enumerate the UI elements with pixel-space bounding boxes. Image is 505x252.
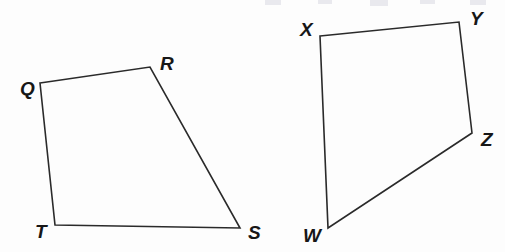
scan-artifact (420, 0, 435, 4)
scan-artifact (265, 0, 281, 5)
vertex-label-w: W (303, 225, 323, 246)
vertex-label-t: T (35, 221, 48, 242)
figure-canvas: Q R S T X Y Z W (0, 0, 505, 252)
shape-quadrilateral-qrst: Q R S T (20, 53, 261, 243)
geometry-figure: Q R S T X Y Z W (0, 0, 505, 252)
scan-artifact-group (265, 0, 486, 6)
vertex-label-y: Y (470, 8, 485, 29)
scan-artifact (318, 0, 332, 4)
shape-quadrilateral-xyzw: X Y Z W (299, 8, 494, 246)
vertex-label-r: R (160, 53, 174, 74)
scan-artifact (370, 0, 388, 6)
vertex-label-s: S (248, 222, 261, 243)
quadrilateral-qrst-outline (40, 67, 240, 228)
vertex-label-q: Q (20, 78, 35, 99)
vertex-label-x: X (299, 19, 314, 40)
scan-artifact (470, 0, 486, 5)
quadrilateral-xyzw-outline (320, 22, 472, 228)
vertex-label-z: Z (480, 129, 494, 150)
